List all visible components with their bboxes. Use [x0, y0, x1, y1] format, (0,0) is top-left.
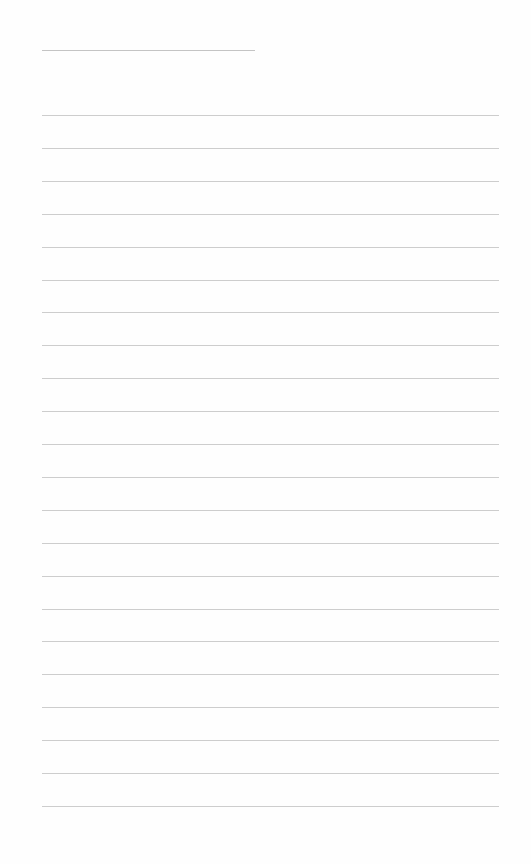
title-line	[42, 50, 255, 51]
ruled-line	[42, 181, 499, 182]
ruled-line	[42, 707, 499, 708]
ruled-line	[42, 115, 499, 116]
ruled-line	[42, 806, 499, 807]
ruled-line	[42, 510, 499, 511]
ruled-line	[42, 444, 499, 445]
ruled-line	[42, 477, 499, 478]
ruled-line	[42, 247, 499, 248]
ruled-line	[42, 740, 499, 741]
ruled-line	[42, 378, 499, 379]
ruled-line	[42, 345, 499, 346]
ruled-line	[42, 576, 499, 577]
ruled-line	[42, 641, 499, 642]
ruled-line	[42, 773, 499, 774]
ruled-line	[42, 280, 499, 281]
notepaper-page	[0, 0, 531, 864]
ruled-line	[42, 411, 499, 412]
ruled-line	[42, 609, 499, 610]
ruled-line	[42, 543, 499, 544]
ruled-line	[42, 214, 499, 215]
ruled-line	[42, 312, 499, 313]
ruled-line	[42, 674, 499, 675]
ruled-line	[42, 148, 499, 149]
